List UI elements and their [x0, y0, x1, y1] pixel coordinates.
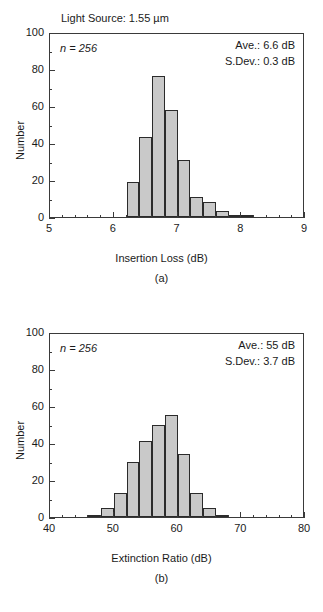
y-major-tick [49, 333, 55, 334]
x-minor-tick [138, 515, 139, 518]
y-tick-label: 40 [16, 437, 44, 449]
y-major-tick [49, 70, 55, 71]
y-major-tick [49, 33, 55, 34]
x-tick-label: 80 [284, 522, 323, 534]
x-major-tick [113, 512, 114, 518]
y-tick-label: 20 [16, 174, 44, 186]
x-minor-tick [202, 515, 203, 518]
x-tick-label: 40 [29, 522, 69, 534]
x-minor-tick [75, 215, 76, 218]
x-minor-tick [215, 515, 216, 518]
x-minor-tick [87, 515, 88, 518]
x-minor-tick [279, 515, 280, 518]
y-major-tick [49, 181, 55, 182]
y-minor-tick [49, 352, 52, 353]
x-minor-tick [228, 515, 229, 518]
bars-b [50, 334, 303, 517]
y-minor-tick [49, 200, 52, 201]
x-major-tick [240, 212, 241, 218]
panel-caption-a: (a) [0, 272, 323, 284]
x-major-tick [177, 212, 178, 218]
y-major-tick [49, 407, 55, 408]
x-tick-label: 6 [93, 222, 133, 234]
x-major-tick [113, 212, 114, 218]
panel-caption-b: (b) [0, 572, 323, 584]
x-minor-tick [164, 215, 165, 218]
x-minor-tick [266, 515, 267, 518]
y-major-tick [49, 518, 55, 519]
histogram-bar [152, 76, 165, 217]
x-tick-label: 8 [220, 222, 260, 234]
y-tick-label: 80 [16, 363, 44, 375]
y-minor-tick [49, 389, 52, 390]
y-major-tick [49, 370, 55, 371]
x-major-tick [240, 512, 241, 518]
x-minor-tick [126, 215, 127, 218]
x-minor-tick [291, 215, 292, 218]
y-major-tick [49, 481, 55, 482]
x-axis-title-a: Insertion Loss (dB) [0, 252, 323, 264]
y-minor-tick [49, 426, 52, 427]
x-minor-tick [151, 215, 152, 218]
x-minor-tick [253, 215, 254, 218]
y-major-tick [49, 444, 55, 445]
y-tick-label: 80 [16, 63, 44, 75]
bars-a [50, 34, 303, 217]
y-minor-tick [49, 89, 52, 90]
x-minor-tick [266, 215, 267, 218]
x-tick-label: 5 [29, 222, 69, 234]
y-tick-label: 60 [16, 100, 44, 112]
y-minor-tick [49, 163, 52, 164]
histogram-bar [178, 160, 191, 217]
x-major-tick [177, 512, 178, 518]
x-minor-tick [291, 515, 292, 518]
y-tick-label: 20 [16, 474, 44, 486]
light-source-header: Light Source: 1.55 µm [61, 12, 169, 24]
plot-area-b: n = 256 Ave.: 55 dB S.Dev.: 3.7 dB [49, 333, 304, 518]
x-minor-tick [253, 515, 254, 518]
y-tick-label: 0 [16, 211, 44, 223]
y-major-tick [49, 218, 55, 219]
y-tick-label: 100 [16, 326, 44, 338]
x-minor-tick [138, 215, 139, 218]
x-minor-tick [62, 215, 63, 218]
histogram-bar [127, 462, 140, 518]
histogram-bar [139, 137, 152, 217]
x-tick-label: 7 [157, 222, 197, 234]
histogram-figure: Light Source: 1.55 µm Number n = 256 Ave… [0, 0, 323, 612]
y-minor-tick [49, 463, 52, 464]
y-minor-tick [49, 52, 52, 53]
x-minor-tick [100, 215, 101, 218]
x-minor-tick [126, 515, 127, 518]
x-minor-tick [202, 215, 203, 218]
y-minor-tick [49, 126, 52, 127]
x-major-tick [304, 212, 305, 218]
x-axis-title-b: Extinction Ratio (dB) [0, 552, 323, 564]
histogram-bar [165, 415, 178, 517]
x-minor-tick [151, 515, 152, 518]
x-tick-label: 60 [157, 522, 197, 534]
histogram-bar [139, 441, 152, 517]
histogram-bar [178, 454, 191, 517]
x-minor-tick [215, 215, 216, 218]
histogram-bar [114, 493, 127, 517]
y-tick-label: 100 [16, 26, 44, 38]
histogram-bar [165, 110, 178, 217]
histogram-bar [190, 493, 203, 517]
panel-a-insertion-loss: Light Source: 1.55 µm Number n = 256 Ave… [0, 0, 323, 300]
x-tick-label: 9 [284, 222, 323, 234]
histogram-bar [127, 182, 140, 217]
x-minor-tick [62, 515, 63, 518]
y-tick-label: 40 [16, 137, 44, 149]
y-tick-label: 0 [16, 511, 44, 523]
x-major-tick [304, 512, 305, 518]
y-major-tick [49, 107, 55, 108]
y-tick-label: 60 [16, 400, 44, 412]
panel-b-extinction-ratio: Number n = 256 Ave.: 55 dB S.Dev.: 3.7 d… [0, 300, 323, 612]
histogram-bar [152, 425, 165, 518]
x-tick-label: 70 [220, 522, 260, 534]
plot-area-a: n = 256 Ave.: 6.6 dB S.Dev.: 0.3 dB [49, 33, 304, 218]
x-minor-tick [87, 215, 88, 218]
x-minor-tick [189, 215, 190, 218]
x-tick-label: 50 [93, 522, 133, 534]
